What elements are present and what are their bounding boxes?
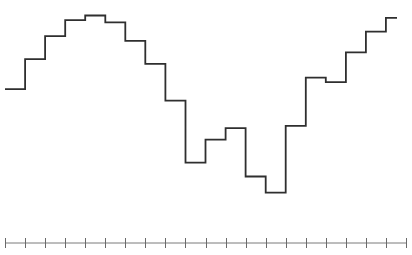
step-series-line bbox=[5, 16, 397, 193]
step-chart bbox=[0, 0, 412, 255]
x-axis-ticks bbox=[6, 238, 407, 248]
x-axis bbox=[5, 238, 407, 248]
